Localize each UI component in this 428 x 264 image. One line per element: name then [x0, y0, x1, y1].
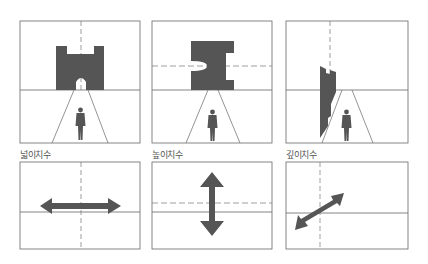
castle-gate-icon [191, 41, 234, 90]
vertical-double-arrow-icon [200, 172, 224, 236]
width-arrow-panel [20, 162, 140, 249]
dimension-diagram [0, 0, 428, 264]
depth-arrow-panel [286, 162, 408, 249]
person-icon [76, 108, 86, 140]
diagonal-double-arrow-icon [295, 193, 344, 230]
width-dimension-label: 넓이치수 [20, 148, 51, 161]
castle-gate-icon [56, 46, 104, 90]
person-icon [342, 110, 352, 141]
depth-dimension-label: 깊이치수 [286, 148, 317, 161]
depth-perspective-panel [286, 21, 408, 143]
height-arrow-panel [152, 162, 272, 249]
width-perspective-panel [20, 21, 140, 143]
height-dimension-label: 높이치수 [152, 148, 183, 161]
height-perspective-panel [152, 21, 272, 143]
person-icon [208, 110, 218, 141]
